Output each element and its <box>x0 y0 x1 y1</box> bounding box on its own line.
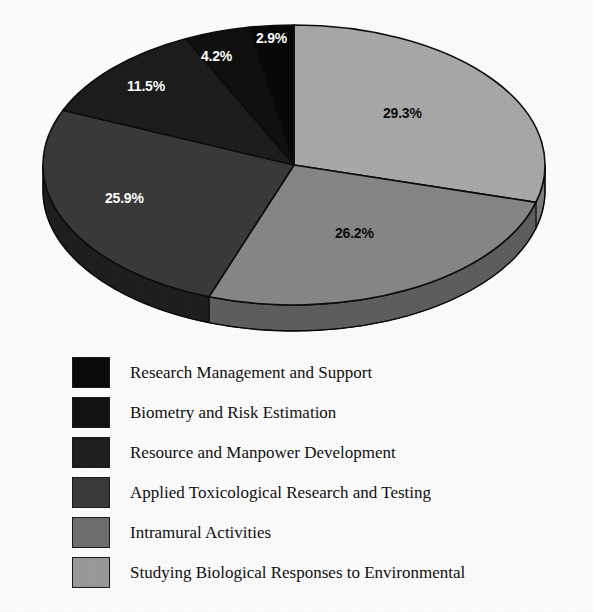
legend-swatch-icon <box>72 437 110 468</box>
legend-item-label: Biometry and Risk Estimation <box>130 404 336 421</box>
pie-chart-svg <box>0 0 594 340</box>
legend-swatch-icon <box>72 477 110 508</box>
chart-legend: Research Management and SupportBiometry … <box>72 352 572 592</box>
legend-item[interactable]: Research Management and Support <box>72 352 572 392</box>
legend-item[interactable]: Resource and Manpower Development <box>72 432 572 472</box>
legend-item[interactable]: Applied Toxicological Research and Testi… <box>72 472 572 512</box>
legend-item-label: Resource and Manpower Development <box>130 444 396 461</box>
legend-item-label: Intramural Activities <box>130 524 271 541</box>
legend-item[interactable]: Intramural Activities <box>72 512 572 552</box>
legend-item-label: Applied Toxicological Research and Testi… <box>130 484 431 501</box>
legend-swatch-icon <box>72 557 110 588</box>
legend-item-label: Studying Biological Responses to Environ… <box>130 564 465 581</box>
legend-item[interactable]: Biometry and Risk Estimation <box>72 392 572 432</box>
legend-swatch-icon <box>72 517 110 548</box>
chart-page: 29.3%26.2%25.9%11.5%4.2%2.9% Research Ma… <box>0 0 594 612</box>
pie-top-faces <box>43 25 545 305</box>
legend-swatch-icon <box>72 357 110 388</box>
legend-swatch-icon <box>72 397 110 428</box>
pie-chart: 29.3%26.2%25.9%11.5%4.2%2.9% <box>0 0 594 340</box>
legend-item[interactable]: Studying Biological Responses to Environ… <box>72 552 572 592</box>
legend-item-label: Research Management and Support <box>130 364 372 381</box>
